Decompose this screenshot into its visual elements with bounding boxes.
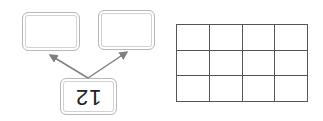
- grid-row: [177, 76, 308, 102]
- grid-cell[interactable]: [177, 25, 210, 51]
- grid-cell[interactable]: [177, 76, 210, 102]
- arrow-to-right: [88, 52, 127, 78]
- grid-cell[interactable]: [209, 76, 242, 102]
- grid-row: [177, 50, 308, 76]
- grid-cell[interactable]: [242, 25, 275, 51]
- grid-cell[interactable]: [209, 50, 242, 76]
- grid-cell[interactable]: [275, 50, 308, 76]
- grid-cell[interactable]: [242, 50, 275, 76]
- grid-cell[interactable]: [242, 76, 275, 102]
- grid-row: [177, 25, 308, 51]
- grid-cell[interactable]: [275, 25, 308, 51]
- grid-cell[interactable]: [275, 76, 308, 102]
- grid-cell[interactable]: [209, 25, 242, 51]
- grid-table: [176, 24, 308, 102]
- arrow-to-left: [50, 55, 88, 78]
- grid-cell[interactable]: [177, 50, 210, 76]
